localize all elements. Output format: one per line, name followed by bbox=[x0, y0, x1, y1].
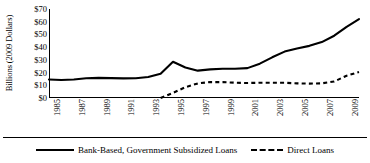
y-axis-tick-label: $40 bbox=[34, 43, 47, 52]
x-axis-tick-label: 1991 bbox=[127, 99, 136, 116]
legend-item-direct-loans: Direct Loans bbox=[251, 145, 334, 155]
y-axis-tick-label: $0 bbox=[39, 94, 48, 103]
x-axis-tick-label: 2001 bbox=[251, 99, 260, 116]
x-axis-tick-label: 1995 bbox=[177, 99, 186, 116]
x-axis-tick-labels: 1985198719891991199319951997199920012003… bbox=[49, 99, 359, 135]
x-axis-tick-label: 1997 bbox=[202, 99, 211, 116]
y-axis-tick-label: $60 bbox=[34, 17, 47, 26]
x-axis-tick-label: 1985 bbox=[53, 99, 62, 116]
x-axis-tick-label: 1999 bbox=[227, 99, 236, 116]
y-axis-title: Billions (2009 Dollars) bbox=[4, 14, 14, 91]
legend-divider bbox=[3, 137, 367, 138]
x-axis-tick-label: 2003 bbox=[276, 99, 285, 116]
series-line-direct-loans bbox=[161, 72, 359, 98]
legend-dashed-line-icon bbox=[251, 149, 283, 151]
y-axis-tick-label: $30 bbox=[34, 55, 47, 64]
chart-legend: Bank-Based, Government Subsidized Loans … bbox=[0, 140, 370, 160]
legend-solid-line-icon bbox=[36, 149, 74, 151]
legend-item-bank-based: Bank-Based, Government Subsidized Loans bbox=[36, 145, 237, 155]
series-line-bank-based bbox=[49, 19, 359, 80]
plot-area bbox=[49, 9, 359, 98]
y-axis-tick-label: $50 bbox=[34, 30, 47, 39]
series-lines bbox=[49, 9, 359, 98]
x-axis-tick-label: 1993 bbox=[152, 99, 161, 116]
legend-label-direct-loans: Direct Loans bbox=[287, 145, 334, 155]
x-axis-tick-label: 2005 bbox=[301, 99, 310, 116]
y-axis-tick-label: $20 bbox=[34, 68, 47, 77]
x-axis-tick-label: 1989 bbox=[103, 99, 112, 116]
y-axis-title-wrap: Billions (2009 Dollars) bbox=[0, 0, 18, 105]
chart-figure: Billions (2009 Dollars) $70$60$50$40$30$… bbox=[0, 0, 370, 163]
y-axis-tick-labels: $70$60$50$40$30$20$10$0 bbox=[17, 6, 48, 101]
x-axis-tick-label: 2009 bbox=[351, 99, 360, 116]
legend-label-bank-based: Bank-Based, Government Subsidized Loans bbox=[78, 145, 237, 155]
x-axis-tick-label: 1987 bbox=[78, 99, 87, 116]
y-axis-tick-label: $10 bbox=[34, 81, 47, 90]
x-axis-tick-label: 2007 bbox=[326, 99, 335, 116]
y-axis-tick-label: $70 bbox=[34, 5, 47, 14]
